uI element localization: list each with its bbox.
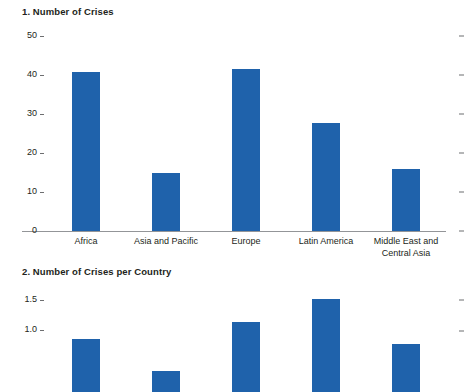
y-axis-tick-label: 0: [32, 225, 37, 235]
bar: [152, 371, 180, 392]
bar: [72, 339, 100, 392]
bar-slot: [366, 36, 446, 231]
y-axis-tick-mark-right: [459, 231, 464, 232]
chart-1-bar-group: [46, 36, 446, 231]
chart-2-bar-group: [46, 294, 446, 392]
y-axis-tick-mark-right: [459, 300, 464, 301]
bar: [392, 344, 420, 392]
y-axis-tick-mark: [40, 300, 44, 301]
y-axis-tick-mark: [40, 192, 44, 193]
chart-1-category-labels: AfricaAsia and PacificEuropeLatin Americ…: [46, 236, 446, 259]
chart-1-axis-line: [22, 231, 446, 232]
bar-slot: [46, 294, 126, 392]
y-axis-tick-mark-right: [459, 153, 464, 154]
chart-crises-per-country: 1.01.5: [0, 286, 464, 392]
bar-slot: [206, 294, 286, 392]
x-axis-category-label: Latin America: [286, 236, 366, 259]
bar-slot: [126, 294, 206, 392]
y-axis-tick-mark: [40, 114, 44, 115]
x-axis-category-label: Europe: [206, 236, 286, 259]
y-axis-tick-label: 1.5: [24, 294, 37, 304]
bar: [312, 123, 340, 231]
bar-slot: [46, 36, 126, 231]
panel-2-title: 2. Number of Crises per Country: [22, 266, 171, 277]
y-axis-tick-mark: [40, 36, 44, 37]
y-axis-tick-mark-right: [459, 75, 464, 76]
y-axis-tick-label: 40: [27, 69, 37, 79]
y-axis-tick-mark-right: [459, 330, 464, 331]
bar-slot: [286, 294, 366, 392]
bar: [232, 69, 260, 231]
bar-slot: [126, 36, 206, 231]
bar: [72, 72, 100, 231]
bar: [232, 322, 260, 392]
y-axis-tick-label: 20: [27, 147, 37, 157]
x-axis-category-label: Asia and Pacific: [126, 236, 206, 259]
bar-slot: [286, 36, 366, 231]
bar-slot: [206, 36, 286, 231]
figure-container: 1. Number of Crises AfricaAsia and Pacif…: [0, 0, 464, 392]
bar-slot: [366, 294, 446, 392]
y-axis-tick-mark-right: [459, 192, 464, 193]
y-axis-tick-mark: [40, 330, 44, 331]
x-axis-category-label: Middle East and Central Asia: [366, 236, 446, 259]
bar: [392, 169, 420, 231]
panel-1-title: 1. Number of Crises: [22, 6, 114, 17]
bar: [312, 299, 340, 392]
y-axis-tick-mark-right: [459, 36, 464, 37]
x-axis-category-label: Africa: [46, 236, 126, 259]
y-axis-tick-label: 1.0: [24, 324, 37, 334]
y-axis-tick-mark: [40, 75, 44, 76]
y-axis-tick-mark: [40, 153, 44, 154]
bar: [152, 173, 180, 231]
y-axis-tick-mark-right: [459, 114, 464, 115]
y-axis-tick-label: 50: [27, 30, 37, 40]
y-axis-tick-label: 10: [27, 186, 37, 196]
chart-number-of-crises: AfricaAsia and PacificEuropeLatin Americ…: [0, 28, 464, 264]
y-axis-tick-label: 30: [27, 108, 37, 118]
